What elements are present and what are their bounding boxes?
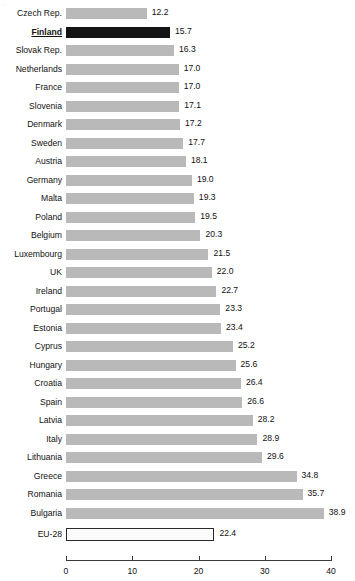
bar-row: Estonia23.4 [0, 321, 355, 340]
bar [66, 286, 216, 297]
bar-value-label: 18.1 [191, 154, 208, 167]
bar-value-label: 17.0 [184, 62, 201, 75]
bar [66, 249, 208, 260]
bar-row: Slovak Rep.16.3 [0, 43, 355, 62]
bar [66, 360, 236, 371]
bar-track [66, 489, 331, 500]
bar [66, 175, 192, 186]
bar-value-label: 22.4 [219, 527, 236, 540]
bar-row: Netherlands17.0 [0, 62, 355, 81]
x-axis-tick-label: 40 [326, 566, 336, 576]
bar-value-label: 22.7 [221, 284, 238, 297]
bar [66, 138, 183, 149]
bar-value-label: 16.3 [179, 43, 196, 56]
category-label: Bulgaria [0, 506, 62, 520]
bar-row: Lithuania29.6 [0, 450, 355, 469]
bar-value-label: 26.6 [247, 395, 264, 408]
bar-value-label: 17.7 [188, 136, 205, 149]
bar-row: UK22.0 [0, 265, 355, 284]
bar [66, 267, 212, 278]
bar [66, 415, 253, 426]
category-label: Austria [0, 154, 62, 168]
bar-row: Poland19.5 [0, 210, 355, 229]
bar-row: Finland15.7 [0, 25, 355, 44]
bar-row: Latvia28.2 [0, 413, 355, 432]
bar-row: Czech Rep.12.2 [0, 6, 355, 25]
bar-value-label: 35.7 [308, 487, 325, 500]
x-axis-tick-label: 30 [260, 566, 270, 576]
x-axis-tick-label: 20 [194, 566, 204, 576]
bar-track [66, 397, 331, 408]
category-label: UK [0, 265, 62, 279]
bar-value-label: 15.7 [175, 25, 192, 38]
bar-row: Ireland22.7 [0, 284, 355, 303]
category-label: Ireland [0, 284, 62, 298]
bar-row: Austria18.1 [0, 154, 355, 173]
category-label: Denmark [0, 117, 62, 131]
bar [66, 304, 220, 315]
bar [66, 230, 200, 241]
bar-row: Germany19.0 [0, 173, 355, 192]
x-axis [66, 560, 331, 561]
bar [66, 341, 233, 352]
bar-track [66, 45, 331, 56]
category-label: EU-28 [0, 527, 62, 541]
bar [66, 119, 180, 130]
bar-value-label: 20.3 [205, 228, 222, 241]
category-label: Slovak Rep. [0, 43, 62, 57]
bar-row: Malta19.3 [0, 191, 355, 210]
bar-track [66, 27, 331, 38]
category-label: Lithuania [0, 450, 62, 464]
bar-value-label: 29.6 [267, 450, 284, 463]
bar-row: Spain26.6 [0, 395, 355, 414]
category-label: Poland [0, 210, 62, 224]
category-label: Czech Rep. [0, 6, 62, 20]
bar [66, 471, 297, 482]
category-label: Luxembourg [0, 247, 62, 261]
x-axis-tick-label: 0 [64, 566, 69, 576]
bar-value-label: 25.6 [241, 358, 258, 371]
bar [66, 27, 170, 38]
bar-track [66, 8, 331, 19]
x-axis-tick [331, 556, 332, 561]
category-label: Cyprus [0, 339, 62, 353]
bar-row: Denmark17.2 [0, 117, 355, 136]
category-label: Greece [0, 469, 62, 483]
bar [66, 397, 242, 408]
bar-row: Luxembourg21.5 [0, 247, 355, 266]
x-axis-tick [265, 556, 266, 561]
bar [66, 528, 214, 541]
bar [66, 323, 221, 334]
bar-value-label: 34.8 [302, 469, 319, 482]
bar-track [66, 452, 331, 463]
category-label: Hungary [0, 358, 62, 372]
bar-track [66, 529, 331, 540]
bar-row: Sweden17.7 [0, 136, 355, 155]
bar-track [66, 304, 331, 315]
bar-track [66, 508, 331, 519]
bar-track [66, 249, 331, 260]
bar [66, 508, 324, 519]
bar-value-label: 19.3 [199, 191, 216, 204]
category-label: Spain [0, 395, 62, 409]
bar [66, 489, 303, 500]
bar-value-label: 17.1 [184, 99, 201, 112]
category-label: Latvia [0, 413, 62, 427]
bar [66, 193, 194, 204]
bar-track [66, 267, 331, 278]
x-axis-tick-label: 10 [127, 566, 137, 576]
bar [66, 212, 195, 223]
bar-value-label: 28.9 [262, 432, 279, 445]
bar-row: Slovenia17.1 [0, 99, 355, 118]
bar-value-label: 26.4 [246, 376, 263, 389]
bar [66, 8, 147, 19]
bar-value-label: 19.0 [197, 173, 214, 186]
bar [66, 101, 179, 112]
bar-value-label: 28.2 [258, 413, 275, 426]
bar-value-label: 22.0 [217, 265, 234, 278]
bar-value-label: 12.2 [152, 6, 169, 19]
category-label: Portugal [0, 302, 62, 316]
bar [66, 45, 174, 56]
bar-track [66, 360, 331, 371]
bar [66, 156, 186, 167]
